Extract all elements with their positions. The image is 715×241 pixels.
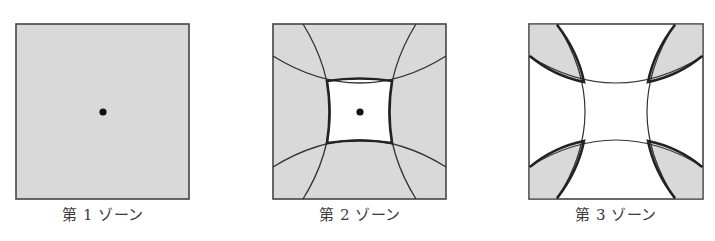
zone-1-diagram: [14, 22, 192, 202]
zone-2-diagram: [271, 22, 449, 202]
zone-1-label: 第 1 ゾーン: [14, 203, 192, 224]
zone-2-panel: 第 2 ゾーン: [271, 0, 471, 241]
zone-3-label: 第 3 ゾーン: [527, 203, 705, 224]
center-dot-icon: [99, 108, 106, 115]
zone-1-panel: 第 1 ゾーン: [14, 0, 214, 241]
zone-3-diagram: [527, 22, 705, 202]
zone-3-panel: 第 3 ゾーン: [527, 0, 715, 241]
zone-2-label: 第 2 ゾーン: [271, 203, 449, 224]
center-dot-icon: [356, 108, 363, 115]
